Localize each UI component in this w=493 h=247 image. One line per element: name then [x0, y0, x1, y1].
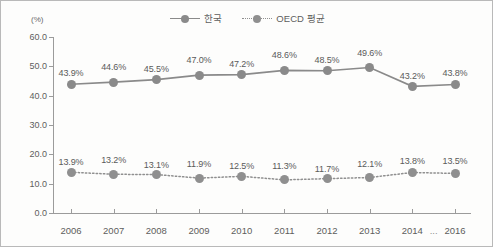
- y-axis-tick-label: 60.0: [9, 32, 47, 42]
- data-point-label: 13.9%: [58, 157, 83, 167]
- y-axis-tick-mark: [49, 66, 53, 67]
- y-axis-tick-mark: [49, 125, 53, 126]
- x-axis-tick-label: 2011: [274, 225, 294, 236]
- data-point-label: 13.5%: [442, 156, 467, 166]
- x-axis-tick-mark: [71, 209, 72, 213]
- data-point-marker[interactable]: [67, 80, 76, 89]
- y-axis-tick-label: 50.0: [9, 61, 47, 71]
- data-point-marker[interactable]: [195, 174, 204, 183]
- data-point-label: 13.8%: [400, 156, 425, 166]
- x-axis-tick-mark: [327, 209, 328, 213]
- x-axis-ellipsis: ...: [430, 225, 438, 236]
- x-axis-tick-label: 2013: [359, 225, 380, 236]
- x-axis-tick-label: 2008: [146, 225, 167, 236]
- data-point-marker[interactable]: [323, 174, 332, 183]
- data-point-label: 43.9%: [58, 68, 83, 78]
- data-point-label: 13.2%: [101, 155, 126, 165]
- y-axis-tick-label: 20.0: [9, 149, 47, 159]
- x-axis-line: [53, 213, 471, 214]
- plot-area: 0.010.020.030.040.050.060.02006200720082…: [1, 1, 493, 247]
- data-point-label: 12.1%: [357, 159, 382, 169]
- y-axis-tick-label: 30.0: [9, 120, 47, 130]
- y-axis-tick-mark: [49, 154, 53, 155]
- x-axis-tick-mark: [114, 209, 115, 213]
- data-point-marker[interactable]: [152, 75, 161, 84]
- y-axis-line: [53, 37, 54, 213]
- y-axis-tick-label: 10.0: [9, 179, 47, 189]
- x-axis-tick-mark: [284, 209, 285, 213]
- data-point-marker[interactable]: [408, 168, 417, 177]
- data-point-marker[interactable]: [109, 170, 118, 179]
- x-axis-tick-label: 2006: [60, 225, 81, 236]
- x-axis-tick-label: 2010: [231, 225, 252, 236]
- data-point-label: 48.5%: [314, 55, 339, 65]
- x-axis-tick-mark: [242, 209, 243, 213]
- x-axis-tick-label: 2014: [402, 225, 423, 236]
- x-axis-tick-label: 2016: [444, 225, 465, 236]
- data-point-label: 45.5%: [144, 64, 169, 74]
- data-point-label: 13.1%: [144, 160, 169, 170]
- data-point-marker[interactable]: [323, 66, 332, 75]
- x-axis-tick-mark: [455, 209, 456, 213]
- data-point-label: 43.8%: [442, 68, 467, 78]
- series-lines: [1, 1, 493, 247]
- x-axis-tick-mark: [199, 209, 200, 213]
- y-axis-tick-label: 0.0: [9, 208, 47, 218]
- data-point-marker[interactable]: [451, 80, 460, 89]
- data-point-marker[interactable]: [408, 82, 417, 91]
- y-axis-tick-mark: [49, 184, 53, 185]
- x-axis-tick-mark: [412, 209, 413, 213]
- data-point-label: 11.9%: [187, 159, 211, 169]
- data-point-marker[interactable]: [109, 78, 118, 87]
- x-axis-tick-label: 2009: [188, 225, 209, 236]
- data-point-marker[interactable]: [237, 172, 246, 181]
- data-point-label: 11.3%: [272, 161, 296, 171]
- chart-figure: 한국OECD 평균 (%) 0.010.020.030.040.050.060.…: [0, 0, 493, 247]
- data-point-label: 44.6%: [101, 62, 126, 72]
- data-point-label: 48.6%: [272, 50, 297, 60]
- data-point-label: 49.6%: [357, 48, 382, 58]
- y-axis-tick-mark: [49, 37, 53, 38]
- series-line-oecd-average: [71, 172, 455, 180]
- data-point-label: 47.2%: [229, 59, 254, 69]
- data-point-label: 43.2%: [400, 71, 425, 81]
- series-line-korea: [71, 68, 455, 87]
- x-axis-tick-mark: [156, 209, 157, 213]
- x-axis-tick-label: 2007: [103, 225, 124, 236]
- data-point-marker[interactable]: [195, 71, 204, 80]
- data-point-label: 47.0%: [186, 55, 211, 65]
- data-point-label: 11.7%: [315, 164, 339, 174]
- data-point-marker[interactable]: [451, 169, 460, 178]
- y-axis-tick-mark: [49, 213, 53, 214]
- data-point-marker[interactable]: [67, 168, 76, 177]
- y-axis-tick-label: 40.0: [9, 91, 47, 101]
- y-axis-tick-mark: [49, 96, 53, 97]
- data-point-marker[interactable]: [152, 170, 161, 179]
- data-point-label: 12.5%: [229, 161, 254, 171]
- x-axis-tick-label: 2012: [316, 225, 337, 236]
- x-axis-tick-mark: [370, 209, 371, 213]
- data-point-marker[interactable]: [280, 66, 289, 75]
